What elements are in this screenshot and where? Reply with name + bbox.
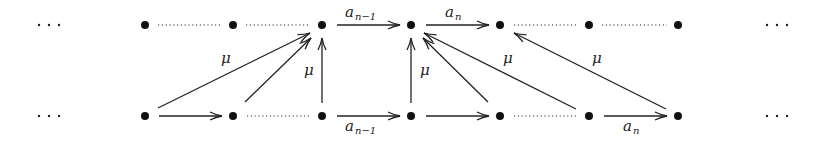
svg-text:a: a <box>345 117 354 135</box>
svg-text:a: a <box>623 117 632 135</box>
mu-arrows <box>158 33 666 109</box>
ellipsis-top-right <box>766 24 788 26</box>
label-top-an: a n <box>445 3 461 22</box>
svg-text:n: n <box>633 125 639 136</box>
ellipsis-top-left <box>38 24 60 26</box>
svg-text:a: a <box>345 3 354 21</box>
label-mu-3: μ <box>420 61 430 79</box>
diagram-canvas: a n−1 a n a n−1 a n μ μ μ μ μ <box>0 0 827 142</box>
nodes-top <box>141 21 682 29</box>
svg-text:a: a <box>445 3 454 21</box>
svg-text:n−1: n−1 <box>355 125 376 136</box>
ellipsis-bottom-right <box>766 115 788 117</box>
label-mu-2: μ <box>304 61 314 79</box>
label-mu-5: μ <box>592 49 602 67</box>
label-bottom-an-1: a n−1 <box>345 117 376 136</box>
label-mu-1: μ <box>221 49 231 67</box>
label-bottom-an: a n <box>623 117 639 136</box>
svg-text:n: n <box>455 11 461 22</box>
label-mu-4: μ <box>503 49 513 67</box>
nodes-bottom <box>141 112 682 120</box>
label-top-an-1: a n−1 <box>345 3 376 22</box>
ellipsis-bottom-left <box>38 115 60 117</box>
svg-text:n−1: n−1 <box>355 11 376 22</box>
